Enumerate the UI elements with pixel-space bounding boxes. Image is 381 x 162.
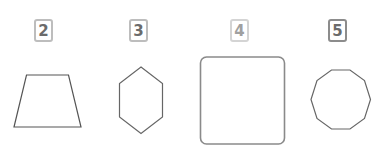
shapes-canvas (0, 0, 381, 162)
trapezoid-shape (14, 75, 81, 127)
hexagon-shape (120, 67, 163, 134)
rounded-square-shape (201, 57, 285, 144)
decagon-shape (311, 70, 371, 129)
